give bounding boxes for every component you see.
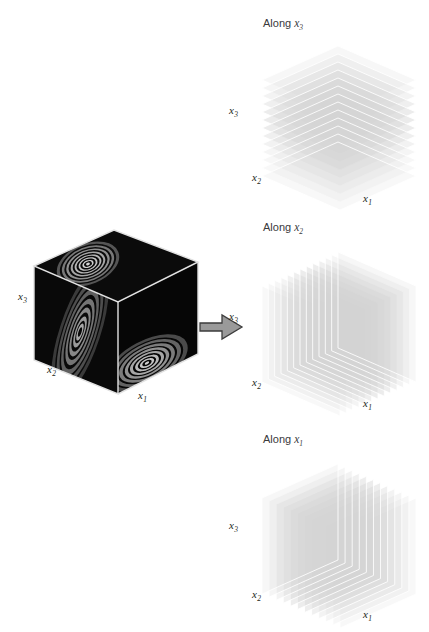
cube-axis-label-x3: x3 (18, 291, 27, 302)
panel-x2-axis-label-x3: x3 (229, 311, 238, 322)
slice-stack-along-x3 (244, 22, 429, 222)
slice-stack-svg-x2 (244, 228, 429, 428)
panel-x2-axis-label-x2: x2 (252, 377, 261, 388)
slice-stack-along-x1 (244, 440, 429, 632)
panel-x2-axis-label-x1: x1 (363, 398, 372, 409)
panel-x3-axis-label-x3: x3 (229, 105, 238, 116)
slice-stack-along-x2 (244, 228, 429, 428)
slice-stack-svg-x3 (244, 22, 429, 222)
panel-x3-axis-label-x2: x2 (252, 172, 261, 183)
cube-axis-label-x1: x1 (138, 390, 147, 401)
panel-x1-axis-label-x1: x1 (363, 609, 372, 620)
panel-x3-axis-label-x1: x1 (363, 193, 372, 204)
cube-axis-label-x2: x2 (47, 364, 56, 375)
slice-stack-svg-x1 (244, 440, 429, 632)
panel-x1-axis-label-x2: x2 (252, 589, 261, 600)
panel-x1-axis-label-x3: x3 (229, 520, 238, 531)
